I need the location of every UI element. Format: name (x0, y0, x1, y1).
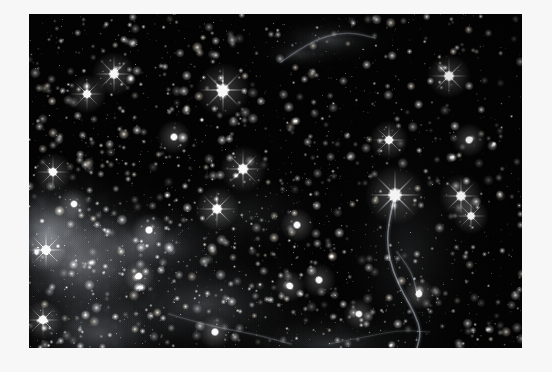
astrophoto-frame (29, 14, 522, 348)
deep-sky-star-field-image (29, 14, 522, 348)
page-root: Deep space photograph of a dense star fi… (0, 0, 552, 372)
